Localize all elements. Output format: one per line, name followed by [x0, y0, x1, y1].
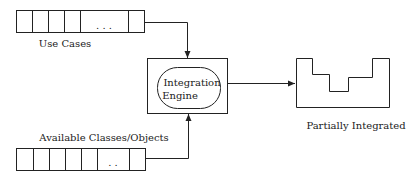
partially-integrated-label: Partially Integrated — [306, 120, 406, 131]
engine-pill — [158, 68, 221, 109]
available-classes-ellipsis: . . — [108, 157, 118, 168]
engine-label-line1: Integration — [163, 77, 221, 88]
use-cases-arrow — [145, 23, 188, 59]
available-classes-strip — [17, 149, 146, 171]
available-classes-label: Available Classes/Objects — [38, 132, 168, 143]
integration-diagram: . . . Use Cases Integration Engine Parti… — [0, 0, 417, 179]
partially-integrated-shape — [297, 59, 390, 108]
use-cases-label: Use Cases — [39, 38, 91, 49]
use-cases-ellipsis: . . . — [96, 20, 112, 31]
use-cases-strip — [17, 11, 145, 33]
engine-label-line2: Engine — [162, 90, 198, 101]
